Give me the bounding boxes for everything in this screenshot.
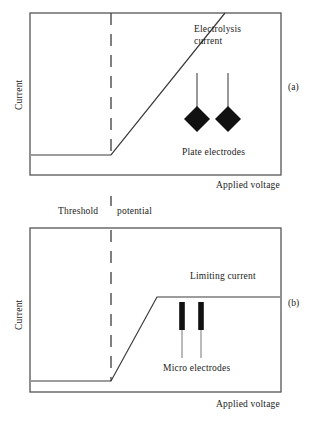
figure-current-voltage: Current Applied voltage Electrolysis cur… xyxy=(0,0,310,422)
micro-electrodes-label: Micro electrodes xyxy=(163,363,230,375)
panel-b-curve xyxy=(31,297,280,381)
panel-b-tag: (b) xyxy=(288,298,299,308)
micro-electrode-1 xyxy=(179,302,185,358)
panel-a: Current Applied voltage Electrolysis cur… xyxy=(0,0,310,200)
plate-electrode-2 xyxy=(215,73,241,132)
micro-electrode-2 xyxy=(198,302,204,358)
diamond-plate-electrode-icon xyxy=(184,106,210,132)
bar-micro-electrode-icon xyxy=(179,302,185,330)
panel-b: Current Applied voltage Limiting current… xyxy=(0,218,310,422)
bar-micro-electrode-icon xyxy=(198,302,204,330)
panel-a-plot xyxy=(0,0,310,200)
plate-electrodes-label: Plate electrodes xyxy=(182,147,245,159)
panel-b-y-axis-label: Current xyxy=(14,300,24,330)
panel-a-x-axis-label: Applied voltage xyxy=(216,180,280,190)
panel-a-curve-label-line1: Electrolysis xyxy=(194,24,241,36)
panel-b-plot xyxy=(0,218,310,422)
panel-b-curve-label: Limiting current xyxy=(190,271,256,283)
panel-b-frame xyxy=(30,228,281,392)
diamond-plate-electrode-icon xyxy=(215,106,241,132)
plate-electrode-1 xyxy=(184,73,210,132)
panel-a-tag: (a) xyxy=(288,82,299,92)
panel-b-x-axis-label: Applied voltage xyxy=(216,399,280,409)
panel-a-curve-label-line2: current xyxy=(194,36,222,48)
threshold-label-left: Threshold xyxy=(58,206,98,216)
panel-a-y-axis-label: Current xyxy=(14,80,24,110)
threshold-label-right: potential xyxy=(117,206,152,216)
